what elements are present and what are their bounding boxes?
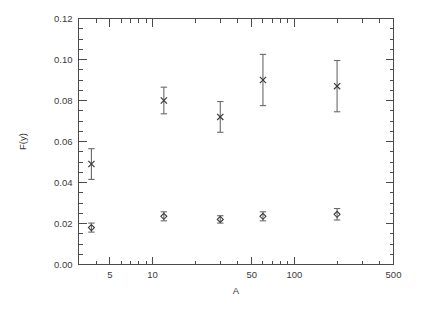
data-point <box>217 216 223 223</box>
x-tick-label: 5 <box>107 269 112 280</box>
data-point <box>260 212 266 221</box>
plot-frame <box>79 19 394 265</box>
y-tick-label: 0.12 <box>54 13 73 24</box>
data-point <box>88 149 94 180</box>
y-axis-title: F(y) <box>17 133 28 150</box>
data-point <box>161 212 167 221</box>
series-upper <box>88 54 340 179</box>
data-point <box>161 87 167 114</box>
y-tick-label: 0.02 <box>54 218 73 229</box>
x-tick-label: 100 <box>286 269 302 280</box>
y-tick-label: 0.08 <box>54 95 73 106</box>
x-axis-title: A <box>233 285 240 296</box>
y-tick-label: 0.00 <box>54 259 73 270</box>
chart-figure: 51050100500A0.000.020.040.060.080.100.12… <box>0 0 427 312</box>
data-point <box>334 209 340 220</box>
y-tick-label: 0.10 <box>54 54 73 65</box>
x-tick-label: 50 <box>246 269 257 280</box>
data-point <box>217 102 223 133</box>
data-point <box>260 54 266 105</box>
y-tick-label: 0.06 <box>54 136 73 147</box>
data-point <box>334 61 340 112</box>
data-point <box>88 223 94 232</box>
x-tick-label: 500 <box>386 269 402 280</box>
series-lower <box>88 209 340 233</box>
x-tick-label: 10 <box>147 269 158 280</box>
scatter-plot: 51050100500A0.000.020.040.060.080.100.12… <box>0 0 427 312</box>
y-tick-label: 0.04 <box>54 177 73 188</box>
